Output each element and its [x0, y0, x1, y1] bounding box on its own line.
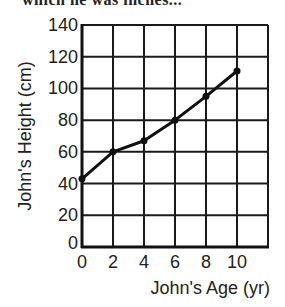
x-axis-ticks: 0246810	[77, 252, 247, 272]
x-tick-label: 2	[108, 252, 118, 272]
height-vs-age-line-chart: 020406080100120140 0246810 John's Height…	[0, 0, 285, 307]
data-point-marker	[203, 93, 210, 100]
y-tick-label: 60	[58, 142, 78, 162]
data-point-marker	[141, 137, 148, 144]
y-tick-label: 20	[58, 205, 78, 225]
y-tick-label: 0	[68, 233, 78, 253]
series-line	[82, 71, 237, 179]
data-point-marker	[110, 148, 117, 155]
x-tick-label: 0	[77, 252, 87, 272]
y-tick-label: 80	[58, 110, 78, 130]
x-axis-label: John's Age (yr)	[151, 278, 271, 298]
y-tick-label: 140	[48, 15, 78, 35]
x-tick-label: 8	[201, 252, 211, 272]
y-axis-label: John's Height (cm)	[15, 61, 35, 210]
y-tick-label: 40	[58, 174, 78, 194]
y-tick-label: 100	[48, 78, 78, 98]
data-point-marker	[79, 175, 86, 182]
y-axis-ticks: 020406080100120140	[48, 15, 78, 253]
data-point-marker	[234, 67, 241, 74]
x-tick-label: 6	[170, 252, 180, 272]
x-tick-label: 4	[139, 252, 149, 272]
x-tick-label: 10	[227, 252, 247, 272]
chart-grid	[81, 24, 269, 248]
y-tick-label: 120	[48, 47, 78, 67]
data-point-marker	[172, 117, 179, 124]
data-series-line	[79, 67, 241, 182]
